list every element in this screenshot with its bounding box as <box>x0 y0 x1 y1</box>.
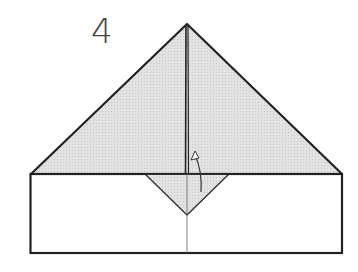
folding-diagram: 4 <box>0 0 358 272</box>
step-number: 4 <box>91 14 113 48</box>
diagram-canvas <box>0 0 358 272</box>
center-edge-left <box>186 25 187 174</box>
center-edge-right <box>188 25 189 174</box>
